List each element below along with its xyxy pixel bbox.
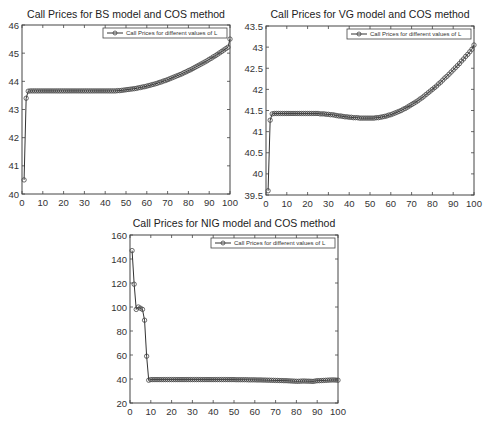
x-tick-label: 50: [121, 197, 132, 208]
x-tick-label: 20: [302, 198, 313, 209]
y-tick-label: 41: [8, 160, 19, 171]
x-tick-label: 100: [330, 406, 346, 417]
y-tick-label: 100: [111, 302, 127, 313]
y-tick-label: 46: [8, 20, 19, 31]
x-tick-label: 0: [263, 198, 268, 209]
y-tick-label: 40: [8, 189, 19, 200]
x-tick-label: 80: [427, 198, 438, 209]
x-tick-label: 30: [323, 198, 334, 209]
y-tick-label: 40.5: [245, 147, 264, 158]
x-tick-label: 50: [365, 198, 376, 209]
legend-label: Call Prices for different values of L: [234, 240, 326, 246]
y-tick-label: 120: [111, 278, 127, 289]
y-tick-label: 60: [116, 350, 127, 361]
x-tick-label: 40: [208, 406, 219, 417]
plot-frame: [266, 26, 474, 195]
x-tick-label: 20: [166, 406, 177, 417]
x-tick-label: 40: [100, 197, 111, 208]
chart-title: Call Prices for BS model and COS method: [27, 8, 225, 20]
legend-label: Call Prices for different values of L: [370, 31, 462, 37]
y-tick-label: 43.5: [245, 21, 264, 32]
nig-chart: 0102030405060708090100204060801001201401…: [111, 217, 346, 417]
x-tick-label: 90: [312, 406, 323, 417]
y-tick-label: 40: [116, 374, 127, 385]
x-tick-label: 10: [282, 198, 293, 209]
x-tick-label: 40: [344, 198, 355, 209]
y-tick-label: 41.5: [245, 105, 264, 116]
y-tick-label: 42: [8, 132, 19, 143]
bs-chart: 010203040506070809010040414243444546Call…: [8, 8, 238, 208]
y-tick-label: 42: [252, 84, 263, 95]
x-tick-label: 70: [406, 198, 417, 209]
y-tick-label: 80: [116, 326, 127, 337]
x-tick-label: 90: [448, 198, 459, 209]
x-tick-label: 60: [386, 198, 397, 209]
y-tick-label: 45: [8, 48, 19, 59]
x-tick-label: 0: [127, 406, 132, 417]
x-tick-label: 60: [142, 197, 153, 208]
y-tick-label: 43: [8, 104, 19, 115]
x-tick-label: 80: [291, 406, 302, 417]
x-tick-label: 50: [229, 406, 240, 417]
legend-label: Call Prices for different values of L: [126, 30, 218, 36]
x-tick-label: 10: [146, 406, 157, 417]
y-tick-label: 43: [252, 42, 263, 53]
x-tick-label: 70: [270, 406, 281, 417]
x-tick-label: 0: [19, 197, 24, 208]
x-tick-label: 90: [204, 197, 215, 208]
y-tick-label: 160: [111, 230, 127, 241]
figure-canvas: 010203040506070809010040414243444546Call…: [0, 0, 488, 425]
y-tick-label: 140: [111, 254, 127, 265]
x-tick-label: 70: [162, 197, 173, 208]
x-tick-label: 80: [183, 197, 194, 208]
x-tick-label: 20: [58, 197, 69, 208]
x-tick-label: 100: [222, 197, 238, 208]
y-tick-label: 44: [8, 76, 19, 87]
y-tick-label: 41: [252, 126, 263, 137]
x-tick-label: 30: [187, 406, 198, 417]
x-tick-label: 60: [250, 406, 261, 417]
x-tick-label: 10: [38, 197, 49, 208]
chart-title: Call Prices for NIG model and COS method: [133, 217, 336, 229]
y-tick-label: 20: [116, 398, 127, 409]
y-tick-label: 39.5: [245, 190, 264, 201]
y-tick-label: 42.5: [245, 63, 264, 74]
y-tick-label: 40: [252, 168, 263, 179]
plot-frame: [22, 25, 230, 194]
x-tick-label: 30: [79, 197, 90, 208]
x-tick-label: 100: [466, 198, 482, 209]
vg-chart: 010203040506070809010039.54040.54141.542…: [245, 8, 482, 209]
chart-title: Call Prices for VG model and COS method: [271, 8, 470, 20]
